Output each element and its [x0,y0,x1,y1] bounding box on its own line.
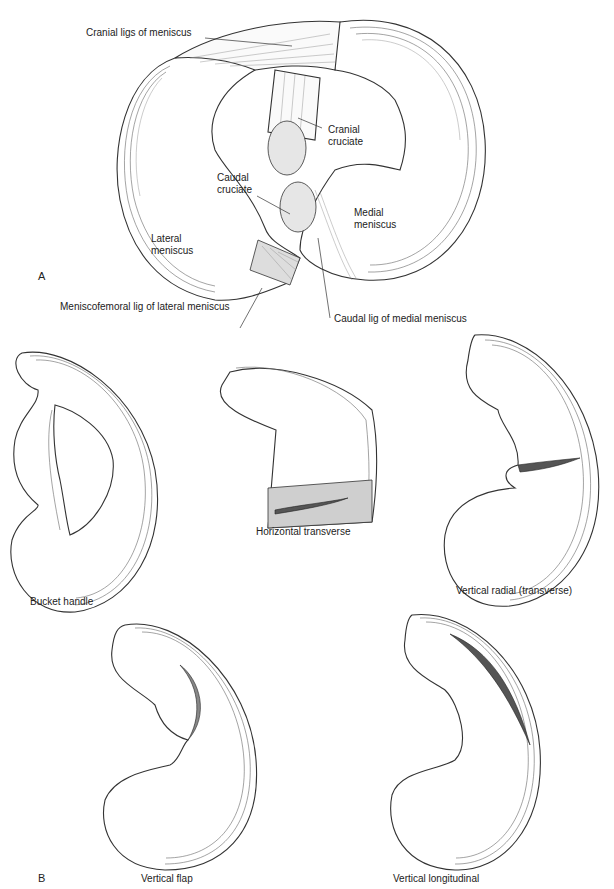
horizontal-transverse-drawing [220,367,376,528]
vertical-radial-drawing [444,335,598,607]
label-bucket-handle: Bucket handle [30,596,93,608]
meniscus-illustration [0,0,614,889]
vertical-longitudinal-drawing [391,614,541,870]
label-caudal-lig-medial: Caudal lig of medial meniscus [334,313,467,325]
label-vertical-flap: Vertical flap [141,873,193,885]
cranial-cruciate-drawing [268,70,320,175]
label-horizontal-transverse: Horizontal transverse [256,526,350,538]
panel-letter-b: B [38,872,45,884]
bucket-handle-drawing [11,352,158,612]
vertical-flap-drawing [103,624,256,870]
label-cranial-ligs: Cranial ligs of meniscus [86,27,192,39]
label-cranial-cruciate: Cranial cruciate [328,124,363,148]
label-vertical-longitudinal: Vertical longitudinal [393,873,479,885]
label-lateral-meniscus: Lateral meniscus [151,233,193,257]
panel-letter-a: A [38,270,45,282]
label-meniscofemoral: Meniscofemoral lig of lateral meniscus [60,301,230,313]
label-vertical-radial: Vertical radial (transverse) [456,585,572,597]
label-caudal-cruciate: Caudal cruciate [217,172,252,196]
label-medial-meniscus: Medial meniscus [354,207,396,231]
